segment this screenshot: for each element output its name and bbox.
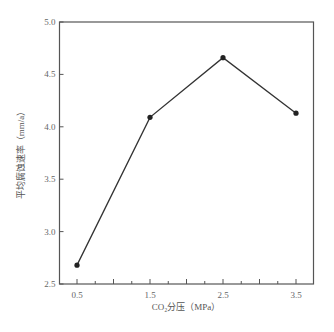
y-tick-label: 3.5 xyxy=(44,174,56,184)
y-axis: 2.53.03.54.04.55.0 xyxy=(44,17,63,289)
x-tick-label: 3.5 xyxy=(290,290,302,300)
x-axis: 0.51.52.53.5 xyxy=(71,279,302,300)
data-point xyxy=(220,55,225,60)
line-chart: 2.53.03.54.04.55.0 0.51.52.53.5 CO₂分压（MP… xyxy=(0,0,334,332)
y-axis-label: 平均腐蚀速率（mm/a） xyxy=(15,107,26,200)
x-tick-label: 2.5 xyxy=(217,290,229,300)
data-point xyxy=(147,115,152,120)
x-tick-label: 1.5 xyxy=(144,290,156,300)
series-line xyxy=(77,58,296,266)
y-tick-label: 4.5 xyxy=(44,69,56,79)
data-point xyxy=(293,111,298,116)
x-tick-label: 0.5 xyxy=(71,290,83,300)
plot-frame xyxy=(60,22,314,284)
y-tick-label: 4.0 xyxy=(44,122,56,132)
y-tick-label: 5.0 xyxy=(44,17,56,27)
y-tick-label: 3.0 xyxy=(44,227,56,237)
data-point xyxy=(74,263,79,268)
y-tick-label: 2.5 xyxy=(44,279,56,289)
x-axis-label: CO₂分压（MPa） xyxy=(152,302,221,312)
